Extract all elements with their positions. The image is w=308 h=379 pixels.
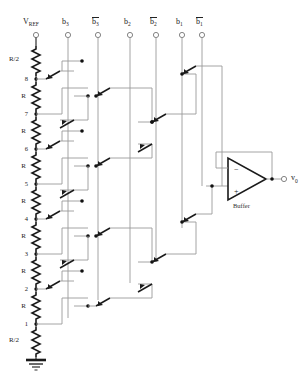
switch-s5[interactable] <box>36 158 88 184</box>
label-b1: b1 <box>176 18 183 26</box>
switch-s8[interactable] <box>36 59 84 79</box>
resistor-label-5: R <box>8 232 26 240</box>
tap-label-7: 7 <box>18 110 28 117</box>
switch-s4[interactable] <box>36 199 84 219</box>
junction-dot-a <box>80 59 84 63</box>
tap-label-4: 4 <box>18 215 28 222</box>
switch-s7[interactable] <box>36 88 88 114</box>
resistor-r-half-bottom <box>32 327 40 357</box>
junction-dot-d <box>80 269 84 273</box>
switch-s1[interactable] <box>36 298 88 324</box>
resistor-label-2: R <box>8 127 26 135</box>
resistor-r-4 <box>32 187 40 217</box>
resistor-label-7: R <box>8 302 26 310</box>
terminal-b1[interactable] <box>179 32 184 37</box>
resistor-r-7 <box>32 292 40 322</box>
stage2-switches <box>60 88 152 308</box>
terminal-b2[interactable] <box>127 32 132 37</box>
tap-label-5: 5 <box>18 180 28 187</box>
terminal-b2bar[interactable] <box>153 32 158 37</box>
resistor-label-4: R <box>8 197 26 205</box>
tap-label-1: 1 <box>18 320 28 327</box>
resistor-r-half-top <box>32 46 40 76</box>
resistor-label-6: R <box>8 267 26 275</box>
opamp-minus-sign: − <box>234 165 239 174</box>
switch-u1[interactable] <box>138 88 196 158</box>
resistor-r-3 <box>32 152 40 182</box>
tap-label-2: 2 <box>18 285 28 292</box>
label-b2bar: b2 <box>150 17 157 26</box>
resistor-ladder <box>26 38 46 370</box>
ground-icon <box>26 360 46 370</box>
label-b2: b2 <box>124 18 131 26</box>
resistor-r-1 <box>32 82 40 112</box>
resistor-label-0: R/2 <box>1 55 19 63</box>
circuit-diagram: − + VREF b3 b3 b2 b2 b1 b1 R/2 R R R R R… <box>0 0 308 379</box>
label-vref: VREF <box>23 18 39 26</box>
buffer-opamp[interactable]: − + <box>216 152 287 200</box>
label-b1bar: b1 <box>196 17 203 26</box>
switch-s6[interactable] <box>36 129 84 149</box>
resistor-r-2 <box>32 117 40 147</box>
tap-label-8: 8 <box>18 75 28 82</box>
tap-label-6: 6 <box>18 145 28 152</box>
switch-s3[interactable] <box>36 228 88 254</box>
terminal-b3[interactable] <box>65 32 70 37</box>
label-b3bar: b3 <box>92 17 99 26</box>
resistor-r-5 <box>32 222 40 252</box>
switch-u2[interactable] <box>138 228 196 298</box>
terminal-vref[interactable] <box>33 32 38 37</box>
output-label: v0 <box>291 173 298 184</box>
terminal-b1bar[interactable] <box>199 32 204 37</box>
resistor-label-1: R <box>8 92 26 100</box>
switch-s2[interactable] <box>36 269 84 289</box>
junction-dot-c <box>80 199 84 203</box>
schematic-canvas: − + <box>0 0 308 379</box>
resistor-label-8: R/2 <box>1 336 19 344</box>
resistor-label-3: R <box>8 162 26 170</box>
opamp-plus-sign: + <box>234 187 239 196</box>
switch-t2[interactable] <box>60 158 152 198</box>
terminal-vout[interactable] <box>281 176 286 181</box>
terminal-b3bar[interactable] <box>95 32 100 37</box>
buffer-input-node <box>210 184 214 188</box>
label-b3: b3 <box>62 18 69 26</box>
stage3-switches <box>138 88 196 298</box>
buffer-label: Buffer <box>233 202 250 209</box>
input-terminals <box>33 32 204 37</box>
tap-label-3: 3 <box>18 250 28 257</box>
junction-dot-b <box>80 129 84 133</box>
stage4-switches <box>180 66 228 254</box>
switch-t4[interactable] <box>74 298 152 308</box>
resistor-r-6 <box>32 257 40 287</box>
